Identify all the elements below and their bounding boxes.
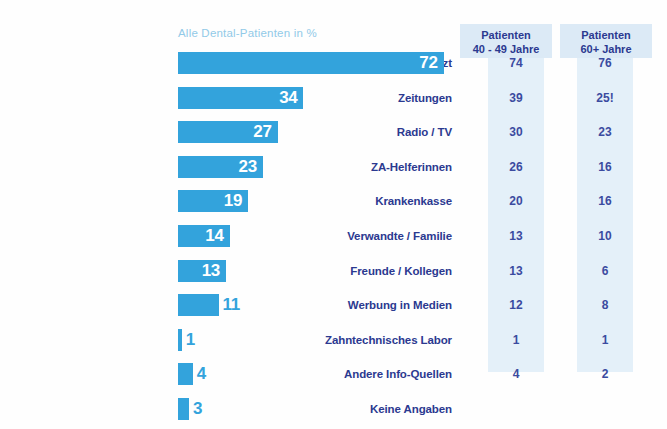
bar-value-label: 19 — [224, 191, 242, 211]
bar-fill: 13 — [178, 260, 226, 282]
bar-fill: 4 — [178, 363, 193, 385]
column-header-line-1: Patienten — [560, 28, 652, 42]
column-header-line-2: 60+ Jahre — [560, 42, 652, 56]
bar-track: 14 — [178, 225, 230, 247]
bar-row: Radio / TV27 — [0, 121, 460, 143]
series-caption: Alle Dental-Patienten in % — [178, 27, 317, 39]
bar-value-label: 34 — [279, 88, 297, 108]
bar-row: Freunde / Kollegen13 — [0, 260, 460, 282]
numeric-column-cell: 23 — [577, 125, 633, 139]
bar-value-label: 27 — [253, 122, 271, 142]
bar-track: 11 — [178, 294, 219, 316]
bar-row: Werbung in Medien11 — [0, 294, 460, 316]
bar-row: Krankenkasse19 — [0, 190, 460, 212]
bar-fill: 3 — [178, 398, 189, 420]
numeric-column-header-text: Patienten40 - 49 Jahre — [460, 28, 552, 56]
numeric-column-cell: 2 — [577, 367, 633, 381]
numeric-column-cell: 8 — [577, 298, 633, 312]
column-header-line-1: Patienten — [460, 28, 552, 42]
bar-category-label: ZA-Helferinnen — [288, 161, 460, 173]
numeric-column-cell: 76 — [577, 56, 633, 70]
bar-row: Keine Angaben3 — [0, 398, 460, 420]
numeric-column-cell: 20 — [488, 194, 544, 208]
bar-track: 13 — [178, 260, 226, 282]
numeric-column-cell: 13 — [488, 264, 544, 278]
bar-row: Zeitungen34 — [0, 87, 460, 109]
bar-category-label: Radio / TV — [288, 126, 460, 138]
bar-track: 19 — [178, 190, 248, 212]
bar-chart-figure: Alle Dental-Patienten in % Zahnarzt72Zei… — [0, 0, 667, 429]
bar-category-label: Werbung in Medien — [288, 299, 460, 311]
bar-row: Zahntechnisches Labor1 — [0, 329, 460, 351]
bar-fill: 1 — [178, 329, 182, 351]
bar-value-label: 13 — [202, 261, 220, 281]
bar-value-label: 3 — [193, 399, 202, 419]
numeric-column-cell: 25! — [577, 91, 633, 105]
numeric-column-cell: 1 — [577, 333, 633, 347]
bar-fill: 72 — [178, 52, 444, 74]
numeric-column-cell: 4 — [488, 367, 544, 381]
bar-track: 72 — [178, 52, 444, 74]
bar-track: 23 — [178, 156, 263, 178]
bar-category-label: Freunde / Kollegen — [288, 265, 460, 277]
bar-fill: 11 — [178, 294, 219, 316]
bar-value-label: 4 — [197, 364, 206, 384]
bar-fill: 19 — [178, 190, 248, 212]
bar-category-label: Keine Angaben — [288, 403, 460, 415]
bar-fill: 23 — [178, 156, 263, 178]
bar-category-label: Verwandte / Familie — [288, 230, 460, 242]
bar-track: 27 — [178, 121, 278, 143]
bar-category-label: Andere Info-Quellen — [288, 368, 460, 380]
numeric-column-cell: 6 — [577, 264, 633, 278]
bar-value-label: 1 — [186, 330, 195, 350]
bar-track: 4 — [178, 363, 193, 385]
bar-value-label: 14 — [205, 226, 223, 246]
bar-row: ZA-Helferinnen23 — [0, 156, 460, 178]
numeric-column-cell: 12 — [488, 298, 544, 312]
column-header-line-2: 40 - 49 Jahre — [460, 42, 552, 56]
bar-fill: 27 — [178, 121, 278, 143]
bar-category-label: Krankenkasse — [288, 195, 460, 207]
bar-value-label: 11 — [223, 295, 240, 315]
bar-value-label: 23 — [239, 157, 257, 177]
numeric-column-cell: 16 — [577, 194, 633, 208]
numeric-column-cell: 30 — [488, 125, 544, 139]
bar-row: Andere Info-Quellen4 — [0, 363, 460, 385]
numeric-column-cell: 26 — [488, 160, 544, 174]
bar-chart-area: Alle Dental-Patienten in % Zahnarzt72Zei… — [0, 0, 460, 429]
bar-category-label: Zahntechnisches Labor — [288, 334, 460, 346]
numeric-column-cell: 10 — [577, 229, 633, 243]
bar-row: Zahnarzt72 — [0, 52, 460, 74]
bar-category-label: Zeitungen — [288, 92, 460, 104]
bar-row: Verwandte / Familie14 — [0, 225, 460, 247]
bar-fill: 14 — [178, 225, 230, 247]
bar-track: 1 — [178, 329, 182, 351]
bar-track: 34 — [178, 87, 303, 109]
bar-fill: 34 — [178, 87, 303, 109]
numeric-column-cell: 39 — [488, 91, 544, 105]
numeric-column-header-text: Patienten60+ Jahre — [560, 28, 652, 56]
bar-value-label: 72 — [419, 53, 437, 73]
bar-track: 3 — [178, 398, 189, 420]
numeric-column-cell: 16 — [577, 160, 633, 174]
numeric-column-cell: 74 — [488, 56, 544, 70]
numeric-column-cell: 13 — [488, 229, 544, 243]
numeric-column-cell: 1 — [488, 333, 544, 347]
